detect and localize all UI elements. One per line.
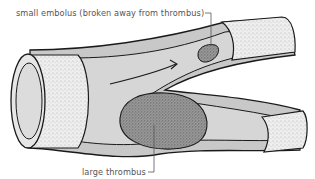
embolus-label: small embolus (broken away from thrombus… xyxy=(16,8,204,18)
large-thrombus xyxy=(120,93,207,149)
thrombus-label: large thrombus xyxy=(82,167,146,177)
upper-branch-cuff xyxy=(222,17,295,60)
vessel-diagram xyxy=(0,0,315,179)
vessel-cut-end xyxy=(11,54,89,148)
lower-branch-cuff xyxy=(262,111,307,152)
